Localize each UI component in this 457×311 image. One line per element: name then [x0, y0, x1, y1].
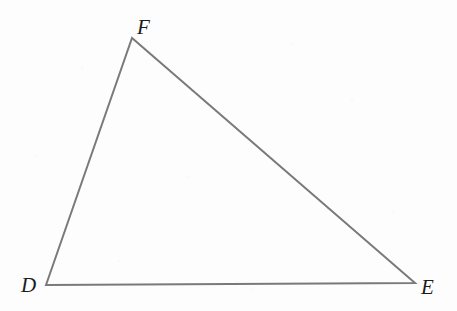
triangle-shape	[0, 0, 457, 311]
triangle-outline-path	[46, 38, 415, 285]
vertex-label-f: F	[137, 17, 150, 38]
figure-canvas: D F E	[0, 0, 457, 311]
vertex-label-d: D	[21, 275, 36, 296]
vertex-label-e: E	[421, 277, 434, 298]
